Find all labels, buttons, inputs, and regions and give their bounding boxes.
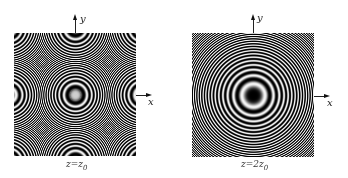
fresnel-ring-pattern-right (192, 33, 314, 157)
x-axis-label: x (327, 98, 333, 108)
panel-right: y x z=2z0 (0, 0, 348, 178)
y-axis-line (253, 18, 254, 33)
caption-subscript: 0 (264, 164, 268, 172)
panel-caption: z=2z0 (241, 160, 268, 172)
y-axis-label: y (257, 13, 263, 23)
y-axis-arrow-icon (251, 14, 255, 20)
